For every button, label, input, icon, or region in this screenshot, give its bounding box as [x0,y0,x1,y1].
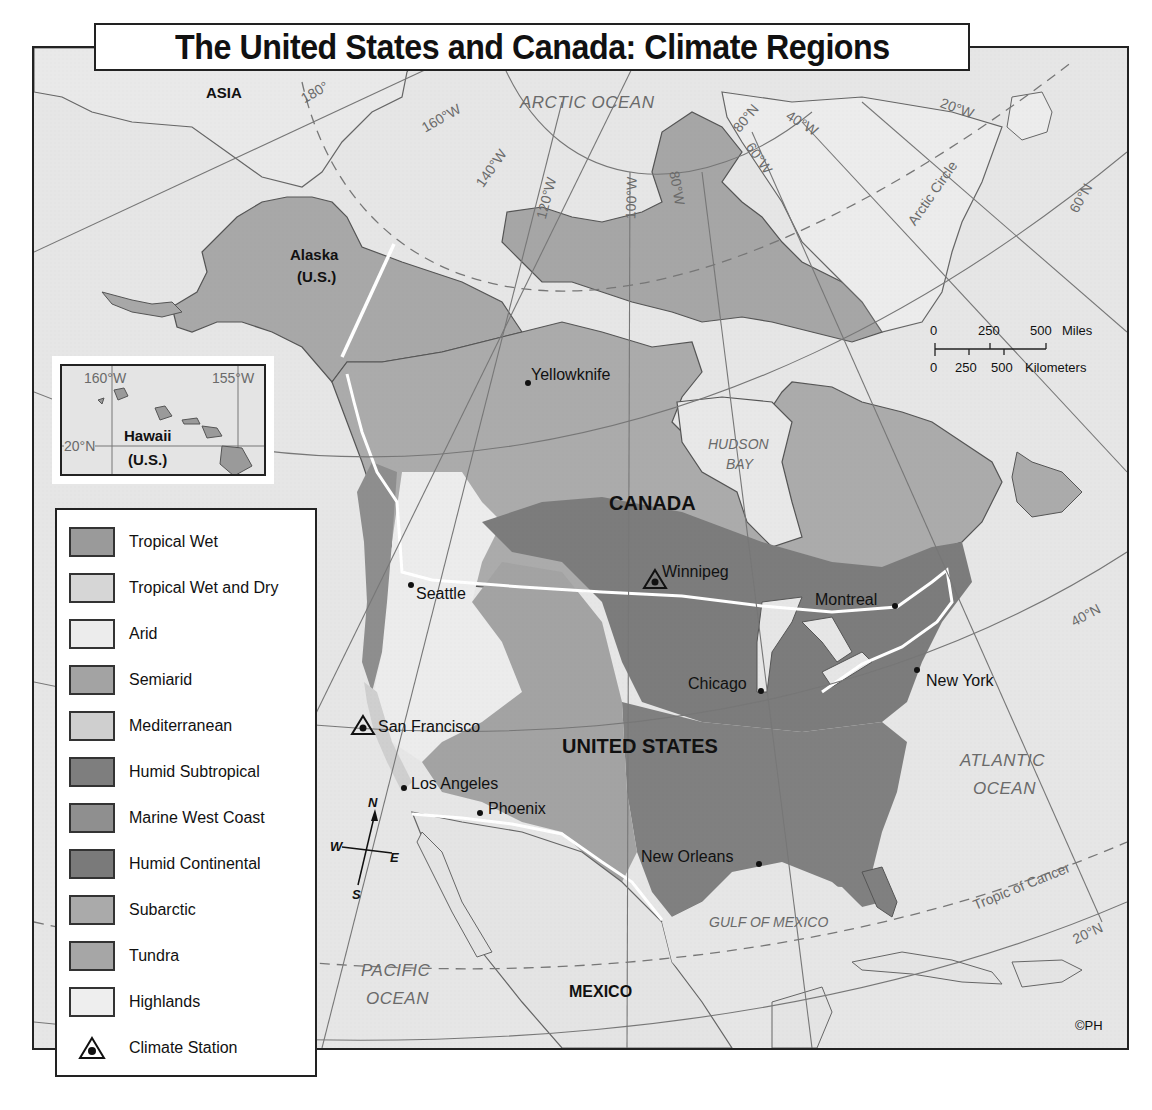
compass-rose: N S W E [330,795,400,905]
city-winnipeg: Winnipeg [662,563,729,581]
legend-item-climate-station: Climate Station [69,1032,238,1064]
map-scale: 0 250 500 Miles 0 250 500 Kilometers [930,323,1110,383]
legend-swatch [69,941,115,971]
legend-label: Semiarid [129,671,192,689]
label-gulf-of-mexico: GULF OF MEXICO [709,914,828,932]
label-mexico: MEXICO [569,982,632,1003]
city-dot-chicago [758,688,764,694]
legend-swatch [69,803,115,833]
inset-lat: 20°N [64,438,95,454]
legend-item-tropical-wet: Tropical Wet [69,526,218,558]
city-los-angeles: Los Angeles [411,775,498,793]
city-dot-new-orleans [756,861,762,867]
city-phoenix: Phoenix [488,800,546,818]
label-canada: CANADA [609,492,696,515]
label-pacific-2: OCEAN [366,988,429,1009]
inset-subtitle: (U.S.) [128,450,167,470]
city-chicago: Chicago [688,675,747,693]
legend-swatch [69,849,115,879]
legend-item-humid-subtropical: Humid Subtropical [69,756,260,788]
map-legend: Tropical Wet Tropical Wet and Dry Arid S… [55,508,317,1077]
legend-item-semiarid: Semiarid [69,664,192,696]
city-montreal: Montreal [815,591,877,609]
city-seattle: Seattle [416,585,466,603]
legend-item-marine-west-coast: Marine West Coast [69,802,265,834]
legend-item-tundra: Tundra [69,940,179,972]
label-arctic-ocean: ARCTIC OCEAN [520,92,654,113]
legend-swatch [69,619,115,649]
grid-label-100w: 100°W [622,177,639,220]
legend-item-highlands: Highlands [69,986,200,1018]
scale-bar [934,341,1054,357]
hawaii-inset: 160°W 155°W 20°N Hawaii (U.S.) [52,356,274,484]
label-hudson-2: BAY [726,456,753,474]
city-dot-seattle [408,582,414,588]
hawaii-inset-map: 160°W 155°W 20°N Hawaii (U.S.) [60,364,266,476]
copyright-notice: ©PH [1075,1018,1103,1033]
label-united-states: UNITED STATES [562,735,718,758]
label-atlantic-2: OCEAN [973,778,1036,799]
scale-km-unit: Kilometers [1025,360,1086,375]
label-asia: ASIA [206,83,242,103]
legend-swatch [69,987,115,1017]
legend-label: Tundra [129,947,179,965]
legend-item-arid: Arid [69,618,157,650]
label-alaska-sub: (U.S.) [297,267,336,287]
city-yellowknife: Yellowknife [531,366,610,384]
scale-km-0: 0 [930,360,937,375]
scale-km-250: 250 [955,360,977,375]
legend-item-tropical-wet-dry: Tropical Wet and Dry [69,572,278,604]
legend-label: Highlands [129,993,200,1011]
legend-label: Tropical Wet and Dry [129,579,278,597]
compass-w: W [330,839,342,854]
scale-mi-500: 500 [1030,323,1052,338]
legend-swatch [69,527,115,557]
climate-station-icon [69,1033,115,1063]
inset-title: Hawaii [124,426,172,446]
legend-label: Humid Subtropical [129,763,260,781]
compass-n: N [368,795,377,810]
label-hudson-1: HUDSON [708,436,769,454]
city-new-orleans: New Orleans [641,848,733,866]
city-dot-new-york [914,667,920,673]
legend-label: Marine West Coast [129,809,265,827]
inset-lon-left: 160°W [84,370,126,386]
legend-label: Subarctic [129,901,196,919]
legend-swatch [69,573,115,603]
legend-label: Humid Continental [129,855,261,873]
legend-label: Tropical Wet [129,533,218,551]
scale-km-500: 500 [991,360,1013,375]
legend-label: Climate Station [129,1039,238,1057]
climate-station-icon [350,714,376,736]
scale-mi-250: 250 [978,323,1000,338]
scale-mi-unit: Miles [1062,323,1092,338]
city-dot-los-angeles [401,785,407,791]
legend-swatch [69,665,115,695]
title-text: The United States and Canada: Climate Re… [175,27,890,67]
city-new-york: New York [926,672,994,690]
city-dot-montreal [892,603,898,609]
legend-swatch [69,757,115,787]
legend-item-subarctic: Subarctic [69,894,196,926]
city-dot-phoenix [477,810,483,816]
label-atlantic-1: ATLANTIC [960,750,1045,771]
inset-lon-right: 155°W [212,370,254,386]
label-alaska: Alaska [290,245,338,265]
label-pacific-1: PACIFIC [361,960,430,981]
legend-swatch [69,895,115,925]
scale-mi-0: 0 [930,323,937,338]
legend-swatch [69,711,115,741]
map-title: The United States and Canada: Climate Re… [94,23,970,71]
compass-s: S [352,887,361,902]
city-san-francisco: San Francisco [378,718,480,736]
legend-label: Arid [129,625,157,643]
legend-item-mediterranean: Mediterranean [69,710,232,742]
compass-e: E [390,850,399,865]
legend-item-humid-continental: Humid Continental [69,848,261,880]
legend-label: Mediterranean [129,717,232,735]
